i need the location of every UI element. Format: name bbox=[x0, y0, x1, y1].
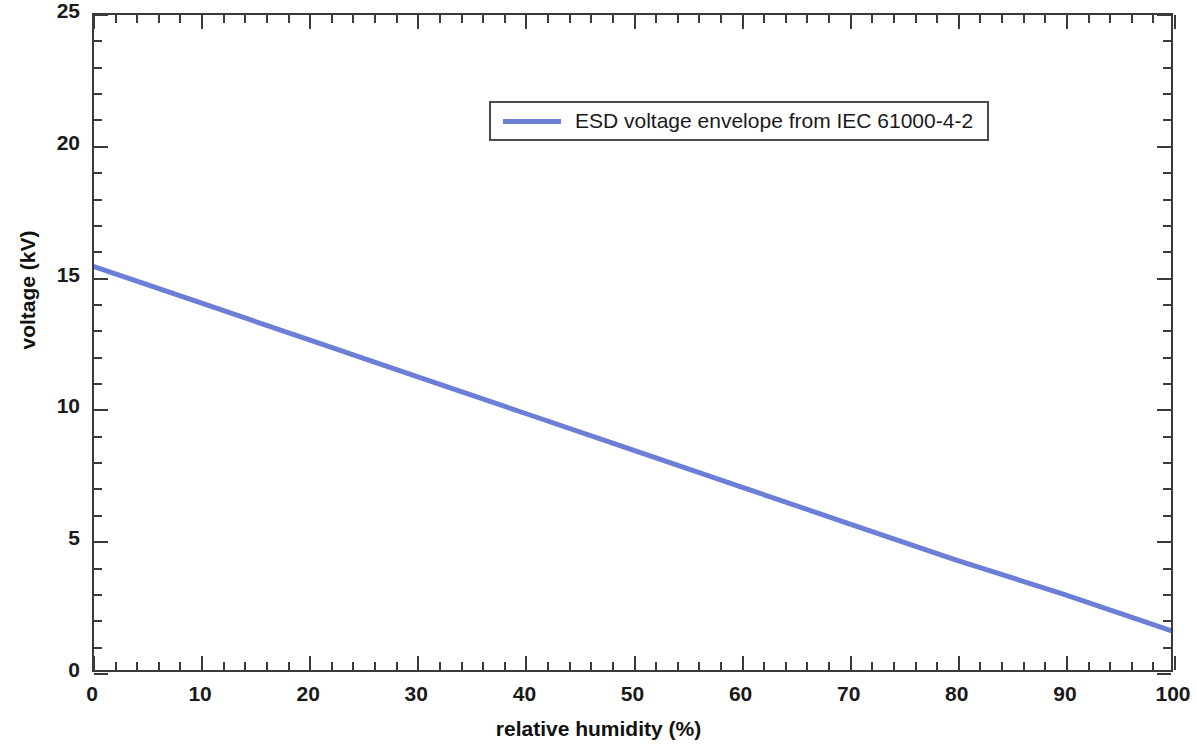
x-tick-label: 10 bbox=[155, 682, 245, 706]
x-tick-label: 30 bbox=[371, 682, 461, 706]
y-tick-label: 25 bbox=[0, 0, 80, 23]
x-tick-label: 60 bbox=[696, 682, 786, 706]
chart-figure: voltage (kV) relative humidity (%) 05101… bbox=[0, 0, 1197, 751]
legend-swatch-wrapper bbox=[501, 111, 563, 131]
y-tick-label: 0 bbox=[0, 658, 80, 682]
x-tick-label: 20 bbox=[263, 682, 353, 706]
y-tick-label: 5 bbox=[0, 526, 80, 550]
legend-line-swatch-icon bbox=[503, 119, 561, 124]
chart-legend: ESD voltage envelope from IEC 61000-4-2 bbox=[489, 101, 989, 141]
x-tick-label: 40 bbox=[479, 682, 569, 706]
y-tick-label: 20 bbox=[0, 131, 80, 155]
x-tick-major bbox=[1174, 656, 1176, 670]
series-line-esd-voltage-envelope bbox=[94, 267, 1171, 631]
y-tick-label: 15 bbox=[0, 263, 80, 287]
x-tick-label: 80 bbox=[912, 682, 1002, 706]
y-tick-major-right bbox=[1157, 673, 1171, 675]
y-tick-label: 10 bbox=[0, 394, 80, 418]
x-tick-label: 100 bbox=[1128, 682, 1197, 706]
y-tick-major bbox=[94, 673, 108, 675]
y-axis-title: voltage (kV) bbox=[16, 200, 40, 380]
x-tick-major-top bbox=[1174, 15, 1176, 29]
x-tick-label: 70 bbox=[804, 682, 894, 706]
x-tick-label: 50 bbox=[588, 682, 678, 706]
legend-entry-label: ESD voltage envelope from IEC 61000-4-2 bbox=[563, 109, 973, 133]
x-tick-label: 0 bbox=[47, 682, 137, 706]
x-tick-label: 90 bbox=[1020, 682, 1110, 706]
x-axis-title: relative humidity (%) bbox=[0, 717, 1197, 741]
